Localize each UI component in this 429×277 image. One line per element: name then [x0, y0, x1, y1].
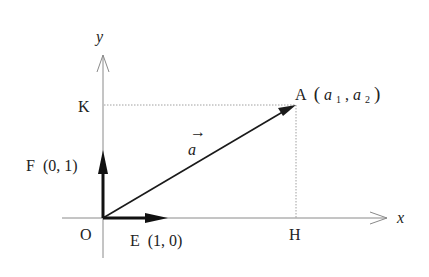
point-f-coords: (0, 1) [43, 157, 78, 175]
point-a-coord2-sub: 2 [365, 94, 370, 105]
point-h-label: H [289, 226, 301, 243]
point-k-label: K [78, 98, 90, 115]
unit-vector-f [98, 150, 108, 218]
vector-diagram: y x K H O A ( a 1 , a 2 ) → a F (0, 1) E… [0, 0, 429, 277]
unit-vector-e [103, 213, 168, 223]
point-e-name: E [130, 232, 140, 249]
point-a-coord1-sub: 1 [336, 94, 341, 105]
y-axis-label: y [94, 28, 104, 46]
unit-vector-f-arrowhead-icon [98, 150, 108, 174]
point-a-sep: , [345, 86, 353, 103]
vector-a-arrow-mark: → [190, 123, 206, 140]
point-f-name: F [26, 157, 35, 174]
vector-a [103, 105, 296, 218]
point-a-coord2: a [353, 86, 361, 103]
point-a-coord1: a [324, 86, 332, 103]
vector-a-arrowhead-icon [278, 105, 296, 116]
point-e-coords: (1, 0) [148, 232, 183, 250]
point-a-open-paren: ( [314, 83, 320, 105]
point-a-close-paren: ) [374, 83, 380, 105]
point-a-name: A [295, 86, 307, 103]
point-e-label: E (1, 0) [130, 232, 182, 250]
origin-label: O [80, 226, 92, 243]
unit-vector-e-arrowhead-icon [145, 213, 168, 223]
point-f-label: F (0, 1) [26, 157, 78, 175]
vector-a-label: a [188, 141, 196, 158]
x-axis-label: x [396, 209, 404, 226]
point-a-label: A ( a 1 , a 2 ) [295, 83, 380, 106]
